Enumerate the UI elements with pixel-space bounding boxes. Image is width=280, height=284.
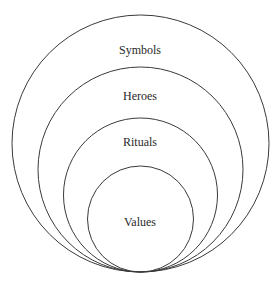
label-symbols: Symbols [0, 43, 280, 57]
onion-diagram: Symbols Heroes Rituals Values [0, 0, 280, 284]
label-heroes: Heroes [0, 89, 280, 103]
label-values: Values [0, 215, 280, 229]
label-rituals: Rituals [0, 135, 280, 149]
